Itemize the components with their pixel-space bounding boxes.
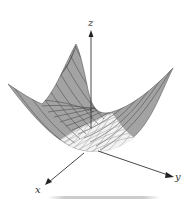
x-axis-label: x	[35, 185, 41, 195]
z-axis-label: z	[88, 18, 93, 28]
y-axis-label: y	[175, 172, 181, 182]
x-axis	[49, 153, 84, 182]
paraboloid-plot: z x y	[0, 0, 185, 205]
y-axis-arrowhead	[165, 172, 174, 178]
z-axis-arrowhead	[89, 30, 94, 37]
y-axis	[98, 151, 168, 175]
surface	[8, 44, 173, 153]
x-axis-arrowhead	[45, 178, 52, 185]
surface-plot-svg	[0, 0, 185, 205]
shadow-band	[48, 196, 160, 199]
